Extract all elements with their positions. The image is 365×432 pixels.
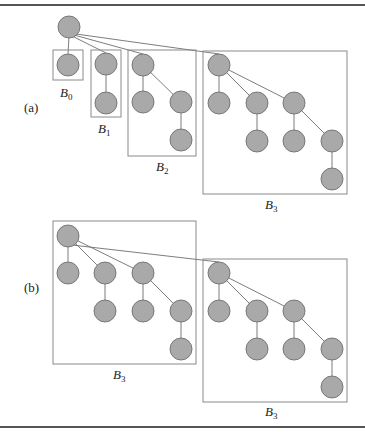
panel-a: (a) B0 B1 B2 xyxy=(24,16,347,214)
tree-node xyxy=(170,300,192,322)
tree-node xyxy=(283,92,305,114)
tree-node xyxy=(321,168,343,190)
tree-node xyxy=(132,300,154,322)
tree-node xyxy=(170,338,192,360)
tree-label: B0 xyxy=(60,85,73,102)
tree-node xyxy=(132,54,154,76)
tree-node xyxy=(246,338,268,360)
tree-node xyxy=(208,92,230,114)
tree-node xyxy=(208,262,230,284)
tree-node xyxy=(246,300,268,322)
tree-node xyxy=(208,300,230,322)
tree-node xyxy=(283,300,305,322)
tree-label: B2 xyxy=(156,159,168,176)
tree-node xyxy=(283,338,305,360)
tree-node xyxy=(95,53,117,75)
tree-b3-right: B3 xyxy=(203,259,347,421)
tree-b2: B2 xyxy=(128,50,196,176)
tree-node xyxy=(321,130,343,152)
tree-node xyxy=(283,130,305,152)
tree-b0: B0 xyxy=(53,50,83,102)
heap-root-node xyxy=(58,16,80,38)
tree-node xyxy=(246,92,268,114)
tree-b3: B3 xyxy=(203,51,347,214)
tree-label: B1 xyxy=(98,121,110,138)
tree-node xyxy=(132,91,154,113)
tree-node xyxy=(95,92,117,114)
panel-b: (b) B3 xyxy=(24,221,347,421)
tree-node xyxy=(246,130,268,152)
tree-node xyxy=(57,262,79,284)
tree-node xyxy=(170,129,192,151)
tree-node xyxy=(57,225,79,247)
tree-b1: B1 xyxy=(91,50,121,138)
tree-node xyxy=(57,54,79,76)
tree-node xyxy=(321,376,343,398)
tree-label: B3 xyxy=(265,404,278,421)
tree-node xyxy=(94,262,116,284)
panel-b-label: (b) xyxy=(24,280,39,295)
tree-node xyxy=(208,54,230,76)
binomial-heap-diagram: (a) B0 B1 B2 xyxy=(0,0,365,432)
tree-node xyxy=(94,300,116,322)
tree-b3-left: B3 xyxy=(53,221,219,384)
tree-label: B3 xyxy=(113,367,126,384)
panel-a-label: (a) xyxy=(24,100,38,115)
tree-node xyxy=(170,91,192,113)
tree-node xyxy=(132,262,154,284)
tree-node xyxy=(321,338,343,360)
tree-label: B3 xyxy=(265,197,278,214)
